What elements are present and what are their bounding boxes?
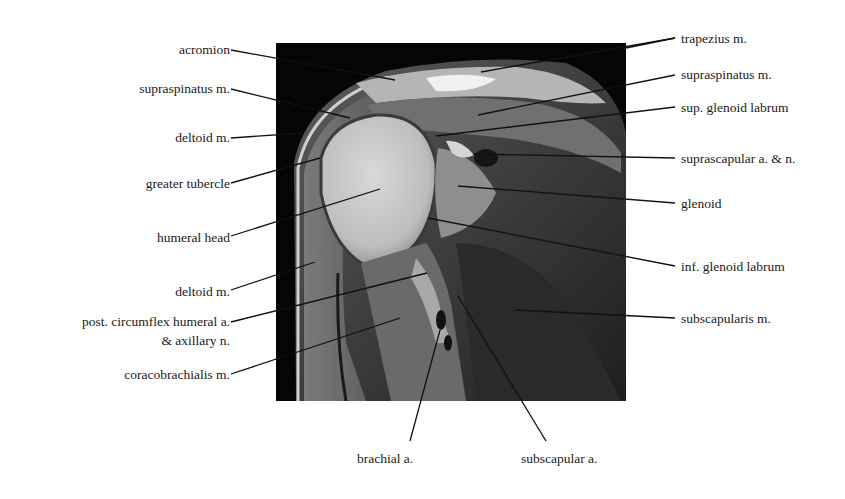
label-subscapular-a: subscapular a. xyxy=(521,451,597,467)
label-greater-tubercle: greater tubercle xyxy=(146,176,230,192)
label-trapezius: trapezius m. xyxy=(681,31,747,47)
label-inf-glenoid-labrum: inf. glenoid labrum xyxy=(681,259,785,275)
mri-shoulder-illustration xyxy=(276,43,626,401)
label-post-circumflex: post. circumflex humeral a. xyxy=(82,314,230,330)
label-axillary-n: & axillary n. xyxy=(161,333,230,349)
label-acromion: acromion xyxy=(179,42,230,58)
label-supraspinatus-right: supraspinatus m. xyxy=(681,67,772,83)
label-supraspinatus-left: supraspinatus m. xyxy=(139,81,230,97)
label-sup-glenoid-labrum: sup. glenoid labrum xyxy=(681,100,789,116)
label-subscapularis: subscapularis m. xyxy=(681,311,771,327)
label-glenoid: glenoid xyxy=(681,196,722,212)
label-humeral-head: humeral head xyxy=(157,230,230,246)
mri-image xyxy=(276,43,626,401)
label-brachial-a: brachial a. xyxy=(357,451,413,467)
label-deltoid-upper: deltoid m. xyxy=(175,130,230,146)
label-deltoid-lower: deltoid m. xyxy=(175,284,230,300)
leader-trapezius xyxy=(626,38,675,48)
label-suprascapular: suprascapular a. & n. xyxy=(681,151,795,167)
label-coracobrachialis: coracobrachialis m. xyxy=(124,367,230,383)
